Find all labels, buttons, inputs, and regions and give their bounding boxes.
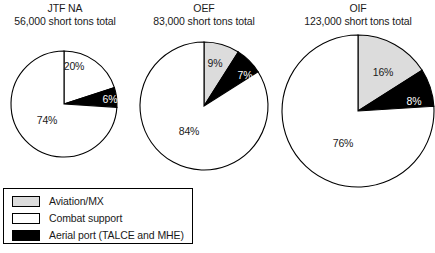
slice-value-label: 20% [64, 60, 85, 72]
legend-label-aviation: Aviation/MX [49, 196, 104, 207]
pie-chart-figure: JTF NA56,000 short tons total20%6%74%OEF… [0, 0, 435, 253]
legend-item-aerial: Aerial port (TALCE and MHE) [12, 227, 192, 243]
slice-value-label: 7% [238, 69, 253, 81]
chart-title-name: OIF [293, 2, 423, 15]
chart-title: JTF NA56,000 short tons total [0, 2, 130, 28]
legend-label-aerial: Aerial port (TALCE and MHE) [49, 230, 184, 241]
legend-swatch-aviation [12, 196, 40, 207]
pie [126, 28, 282, 184]
slice-value-label: 9% [208, 57, 223, 69]
legend-swatch-combat [12, 213, 40, 224]
legend-item-combat: Combat support [12, 210, 192, 226]
legend-swatch-aerial [12, 230, 40, 241]
chart-title: OEF83,000 short tons total [139, 2, 269, 28]
legend-item-aviation: Aviation/MX [12, 193, 192, 209]
legend-label-combat: Combat support [49, 213, 122, 224]
slice-value-label: 6% [103, 93, 118, 105]
chart-title-name: OEF [139, 2, 269, 15]
chart-title-total: 56,000 short tons total [0, 15, 130, 28]
slice-value-label: 84% [179, 125, 200, 137]
chart-title-name: JTF NA [0, 2, 130, 15]
slice-value-label: 8% [407, 95, 422, 107]
chart-title-total: 83,000 short tons total [139, 15, 269, 28]
slice-value-label: 76% [333, 137, 354, 149]
legend: Aviation/MXCombat supportAerial port (TA… [3, 188, 193, 244]
slice-value-label: 16% [373, 66, 394, 78]
pie [268, 21, 435, 201]
slice-value-label: 74% [37, 114, 58, 126]
